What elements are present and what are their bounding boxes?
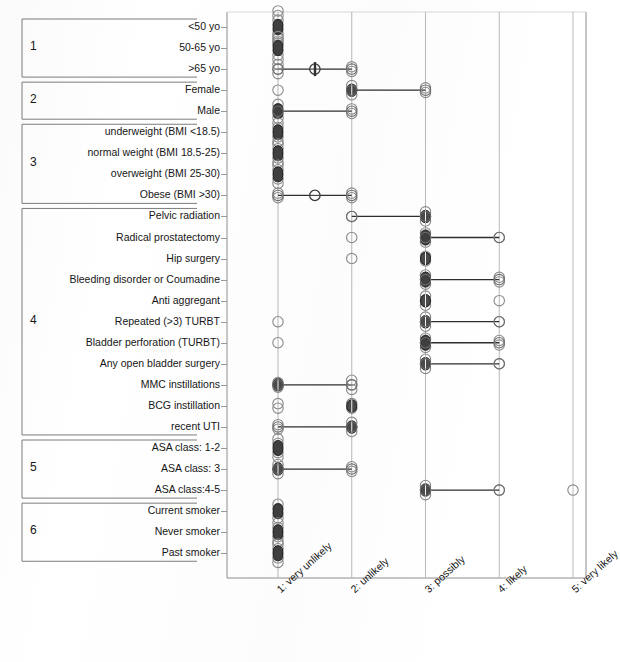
data-row-strip	[420, 354, 504, 374]
data-row-strip	[273, 160, 283, 189]
data-row-strip	[273, 333, 505, 353]
data-row-strip	[347, 207, 431, 227]
data-row-strip	[273, 99, 357, 123]
data-row-strip	[420, 291, 504, 311]
data-row-strip	[273, 139, 283, 168]
data-row-strip	[347, 228, 505, 248]
data-row-strip	[273, 375, 357, 395]
data-row-strip	[273, 417, 357, 437]
data-row-strip	[347, 251, 431, 266]
data-row-strip	[273, 398, 357, 413]
data-row-strip	[273, 188, 357, 203]
data-row-strip	[273, 459, 357, 479]
data-row-strip	[273, 312, 505, 332]
data-row-strip	[273, 434, 283, 463]
data-row-strip	[420, 270, 504, 290]
data-row-strip	[273, 539, 283, 568]
